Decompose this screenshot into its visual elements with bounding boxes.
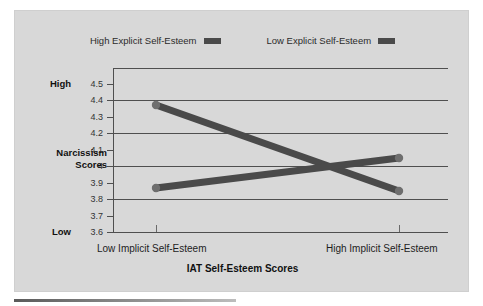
y-axis-title-line1: Narcissism xyxy=(31,147,107,159)
y-axis-ticks xyxy=(107,84,113,232)
y-axis-anchor-low: Low xyxy=(21,226,71,237)
data-point-low-explicit-low-implicit xyxy=(152,184,160,192)
x-axis-ticks xyxy=(156,225,399,232)
page-bottom-rule xyxy=(14,299,236,302)
y-tick-label-4-5: 4.5 xyxy=(77,79,103,89)
chart-page: High Explicit Self-Esteem Low Explicit S… xyxy=(0,0,483,306)
y-tick-label-3-9: 3.9 xyxy=(77,178,103,188)
y-axis-anchor-high: High xyxy=(21,78,71,89)
series-line-low-explicit xyxy=(156,158,399,188)
y-tick-label-4-3: 4.3 xyxy=(77,112,103,122)
y-tick-label-4-4: 4.4 xyxy=(77,95,103,105)
x-axis-title: IAT Self-Esteem Scores xyxy=(15,263,470,274)
chart-figure-panel: High Explicit Self-Esteem Low Explicit S… xyxy=(14,10,469,292)
data-point-high-explicit-high-implicit xyxy=(395,187,403,195)
y-tick-label-3-6: 3.6 xyxy=(77,227,103,237)
y-axis-title-line2: Scores xyxy=(31,159,107,171)
y-tick-label-4-2: 4.2 xyxy=(77,128,103,138)
series-line-high-explicit xyxy=(156,105,399,191)
data-point-high-explicit-low-implicit xyxy=(152,101,160,109)
x-tick-label-high-implicit: High Implicit Self-Esteem xyxy=(326,243,438,254)
data-point-low-explicit-high-implicit xyxy=(395,154,403,162)
y-tick-label-3-8: 3.8 xyxy=(77,194,103,204)
x-tick-label-low-implicit: Low Implicit Self-Esteem xyxy=(97,243,206,254)
y-tick-label-3-7: 3.7 xyxy=(77,211,103,221)
y-axis-title: Narcissism Scores xyxy=(31,147,107,171)
plot-area: 4.5 4.4 4.3 4.2 4.1 4 3.9 3.8 3.7 3.6 Hi… xyxy=(15,11,470,293)
